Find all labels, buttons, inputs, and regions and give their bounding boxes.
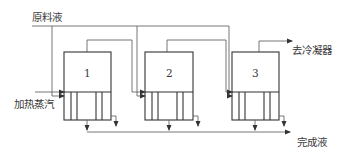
effect-3 — [232, 52, 279, 120]
effect-1-label: 1 — [84, 68, 91, 79]
condenser-label: 去冷凝器 — [292, 45, 332, 56]
product-label: 完成液 — [297, 137, 327, 148]
feed-label: 原料液 — [32, 12, 62, 23]
steam-label: 加热蒸汽 — [14, 99, 54, 110]
vapor-line-1-2 — [87, 40, 145, 92]
condensate-outlets — [111, 116, 284, 126]
effect-3-label: 3 — [252, 68, 259, 79]
vapor-line-condenser — [259, 41, 292, 52]
product-line — [87, 120, 290, 132]
effect-1 — [64, 52, 111, 120]
effect-2 — [145, 52, 193, 120]
vapor-line-2-3 — [167, 40, 232, 92]
effect-2-label: 2 — [166, 68, 173, 79]
evaporator-diagram: 1 2 3 原料液 加热蒸汽 去冷凝器 完成液 — [0, 0, 348, 154]
